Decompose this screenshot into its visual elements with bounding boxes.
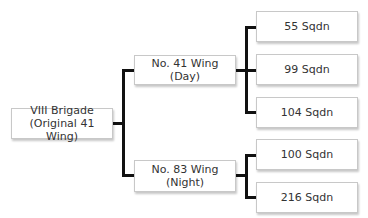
connector-wing-83-trunk bbox=[245, 154, 248, 199]
connector-to-sqdn-99 bbox=[245, 69, 256, 72]
node-label: 55 Sqdn bbox=[284, 20, 329, 33]
node-viii-brigade: VIII Brigade (Original 41 Wing) bbox=[11, 108, 113, 139]
connector-to-wing-41 bbox=[122, 69, 134, 72]
node-sqdn-216: 216 Sqdn bbox=[256, 182, 358, 213]
connector-to-sqdn-100 bbox=[245, 154, 256, 157]
connector-root-trunk bbox=[122, 69, 125, 177]
connector-to-sqdn-104 bbox=[245, 111, 256, 114]
node-sqdn-100: 100 Sqdn bbox=[256, 139, 358, 170]
node-wing-83: No. 83 Wing (Night) bbox=[134, 160, 236, 192]
node-label: 100 Sqdn bbox=[281, 148, 333, 161]
node-wing-41: No. 41 Wing (Day) bbox=[134, 55, 236, 85]
node-label: No. 83 Wing (Night) bbox=[152, 163, 219, 189]
node-label: 104 Sqdn bbox=[281, 106, 333, 119]
node-label: VIII Brigade (Original 41 Wing) bbox=[12, 104, 112, 143]
node-sqdn-99: 99 Sqdn bbox=[256, 54, 358, 85]
node-sqdn-104: 104 Sqdn bbox=[256, 97, 358, 128]
connector-to-sqdn-55 bbox=[245, 26, 256, 29]
connector-to-wing-83 bbox=[122, 174, 134, 177]
node-label: 216 Sqdn bbox=[281, 191, 333, 204]
connector-to-sqdn-216 bbox=[245, 196, 256, 199]
node-label: No. 41 Wing (Day) bbox=[135, 57, 235, 83]
node-label: 99 Sqdn bbox=[284, 63, 329, 76]
node-sqdn-55: 55 Sqdn bbox=[256, 11, 358, 42]
